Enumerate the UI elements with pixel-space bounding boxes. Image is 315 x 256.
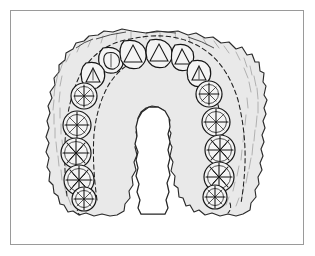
tooth-right-second-premolar [202, 108, 230, 136]
tooth-left-third-molar [72, 187, 96, 211]
tooth-right-central-incisor [146, 39, 172, 67]
tooth-left-first-molar [61, 138, 91, 168]
tooth-right-first-molar [205, 135, 235, 165]
tooth-right-first-premolar [196, 81, 222, 107]
tooth-left-first-premolar [71, 83, 97, 109]
tooth-left-central-incisor [120, 40, 146, 68]
figure-root [0, 0, 315, 256]
palatal-vault-void [135, 107, 170, 214]
tooth-left-second-premolar [63, 111, 91, 139]
dental-arch-illustration [0, 0, 315, 256]
tooth-right-third-molar [203, 185, 227, 209]
